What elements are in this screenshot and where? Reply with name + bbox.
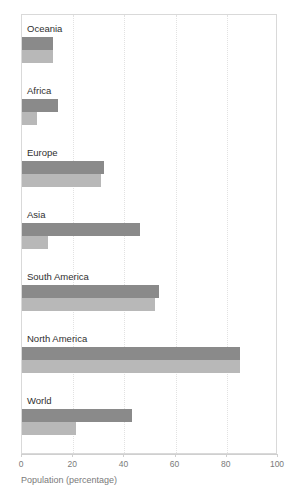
x-axis-tick-mark [21, 454, 22, 457]
x-axis-line [21, 454, 277, 455]
x-axis-tick-label: 20 [67, 459, 76, 469]
bar-group-label: Asia [27, 209, 45, 220]
bar-lower [22, 50, 53, 63]
bar-chart-figure: OceaniaAfricaEuropeAsiaSouth AmericaNort… [0, 0, 295, 500]
bar-upper [22, 161, 104, 174]
bar-group: South America [22, 271, 276, 311]
bar-lower [22, 174, 101, 187]
bar-group-label: Europe [27, 147, 58, 158]
bar-group: Africa [22, 85, 276, 125]
x-axis-tick-mark [226, 454, 227, 457]
bar-group-label: Oceania [27, 23, 62, 34]
x-axis-title: Population (percentage) [21, 475, 117, 486]
x-axis-tick-label: 60 [170, 459, 179, 469]
bar-group: North America [22, 333, 276, 373]
plot-area: OceaniaAfricaEuropeAsiaSouth AmericaNort… [21, 14, 277, 454]
bar-group: World [22, 395, 276, 435]
bar-upper [22, 285, 159, 298]
bar-group: Oceania [22, 23, 276, 63]
x-axis-tick-label: 100 [270, 459, 284, 469]
bar-lower [22, 112, 37, 125]
bar-upper [22, 409, 132, 422]
x-axis-tick-mark [123, 454, 124, 457]
bar-group-label: Africa [27, 85, 51, 96]
bar-lower [22, 236, 48, 249]
x-axis-tick-label: 40 [119, 459, 128, 469]
bar-upper [22, 37, 53, 50]
x-axis-tick-mark [72, 454, 73, 457]
x-axis-tick-mark [175, 454, 176, 457]
bar-lower [22, 422, 76, 435]
bar-group-label: North America [27, 333, 87, 344]
bar-group-label: South America [27, 271, 89, 282]
x-axis-tick-label: 80 [221, 459, 230, 469]
bar-upper [22, 99, 58, 112]
bar-upper [22, 347, 240, 360]
bar-lower [22, 360, 240, 373]
bar-lower [22, 298, 155, 311]
bar-upper [22, 223, 140, 236]
bar-group: Europe [22, 147, 276, 187]
x-axis-tick-label: 0 [19, 459, 24, 469]
bar-group: Asia [22, 209, 276, 249]
x-axis-tick-mark [277, 454, 278, 457]
bar-group-label: World [27, 395, 52, 406]
